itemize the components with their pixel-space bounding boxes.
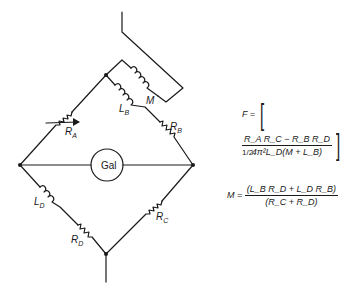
equation-m-lhs: M =: [227, 190, 242, 200]
equation-m: M = (L_B R_D + L_D R_B) (R_C + R_D): [227, 184, 338, 207]
mutual-inductor-coil: [131, 67, 158, 96]
label-lb: LB: [119, 103, 130, 116]
wire-left-ld: [20, 165, 40, 187]
equation-m-fraction: (L_B R_D + L_D R_B) (R_C + R_D): [245, 184, 338, 207]
gal-label: Gal: [101, 160, 117, 171]
node-right: [191, 163, 195, 167]
wire-top-left: [72, 75, 106, 112]
label-m: M: [146, 95, 155, 106]
m-branch-wire: [106, 60, 131, 75]
label-rc: RC: [156, 211, 169, 224]
equation-f-denominator: 4π²L_D(M + L_B): [242, 146, 332, 157]
label-rd: RD: [71, 234, 83, 247]
equation-m-numerator: (L_B R_D + L_D R_B): [245, 184, 338, 196]
resistor-rd: [78, 224, 106, 254]
equation-m-denominator: (R_C + R_D): [245, 196, 338, 207]
equation-f: F = [ R_A R_C − R_B R_D 4π²L_D(M + L_B) …: [242, 100, 345, 173]
resistor-rc: [106, 201, 162, 254]
node-bottom: [104, 252, 108, 256]
equation-f-numerator: R_A R_C − R_B R_D: [242, 134, 332, 146]
resistor-ra: [20, 112, 72, 165]
ra-arrow-head: [73, 118, 80, 126]
node-top: [104, 73, 108, 77]
equation-f-fraction: R_A R_C − R_B R_D 4π²L_D(M + L_B): [242, 134, 332, 157]
node-left: [18, 163, 22, 167]
label-ra: RA: [65, 126, 77, 139]
label-ld: LD: [34, 196, 45, 209]
equation-f-lhs: F =: [242, 109, 255, 119]
inductor-ld-coil: [40, 186, 78, 225]
label-rb: RB: [170, 121, 182, 134]
top-lead-wire: [122, 12, 183, 102]
equation-f-exponent: 1/2: [242, 148, 253, 157]
right-bracket: ]: [337, 130, 341, 160]
left-bracket: [: [260, 100, 264, 130]
wire-right-rc: [162, 165, 193, 201]
lb-wire: [106, 75, 115, 85]
